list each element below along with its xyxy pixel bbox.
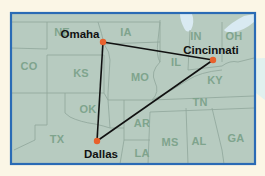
state-label-il: IL bbox=[171, 56, 181, 68]
route-map: NE IA IN OH CO KS IL MO KY OK TN AR TX M… bbox=[0, 0, 265, 176]
state-label-mo: MO bbox=[131, 71, 149, 83]
state-label-oh: OH bbox=[226, 30, 243, 42]
state-label-tn: TN bbox=[192, 96, 207, 108]
state-label-ga: GA bbox=[228, 132, 245, 144]
city-label-cincinnati: Cincinnati bbox=[183, 44, 239, 56]
city-dot-cincinnati bbox=[210, 57, 216, 63]
map-graphic bbox=[0, 0, 265, 176]
city-label-dallas: Dallas bbox=[84, 148, 118, 160]
state-label-ky: KY bbox=[207, 74, 223, 86]
city-dot-omaha bbox=[100, 39, 106, 45]
city-dot-dallas bbox=[94, 138, 100, 144]
state-label-ar: AR bbox=[134, 117, 150, 129]
map-land bbox=[11, 13, 255, 164]
state-label-in: IN bbox=[190, 30, 201, 42]
city-label-omaha: Omaha bbox=[61, 28, 100, 40]
state-label-al: AL bbox=[191, 135, 206, 147]
state-label-ia: IA bbox=[120, 26, 131, 38]
state-label-ok: OK bbox=[80, 103, 97, 115]
state-label-ms: MS bbox=[162, 136, 179, 148]
state-label-la: LA bbox=[134, 147, 149, 159]
state-label-co: CO bbox=[21, 60, 38, 72]
state-label-tx: TX bbox=[50, 133, 64, 145]
state-label-ks: KS bbox=[73, 67, 89, 79]
